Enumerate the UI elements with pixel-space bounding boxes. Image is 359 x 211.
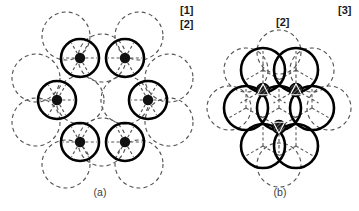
figure-container: [1][2] (a) [2][3] (b) xyxy=(0,0,359,211)
panel-b-label-2: [3] xyxy=(338,4,352,16)
center-dot xyxy=(120,53,130,63)
panel-a-label-2: [2] xyxy=(180,18,194,30)
center-dot xyxy=(52,95,62,105)
panel-a-label-1: [1] xyxy=(180,4,194,16)
center-dot xyxy=(75,53,85,63)
panel-a-caption: (a) xyxy=(94,186,107,198)
center-dot xyxy=(143,95,153,105)
center-dot xyxy=(120,137,130,147)
figure-canvas: [1][2] (a) [2][3] (b) xyxy=(0,0,359,211)
center-dot xyxy=(75,137,85,147)
panel-b-caption: (b) xyxy=(274,186,287,198)
panel-b-label-1: [2] xyxy=(276,16,290,28)
